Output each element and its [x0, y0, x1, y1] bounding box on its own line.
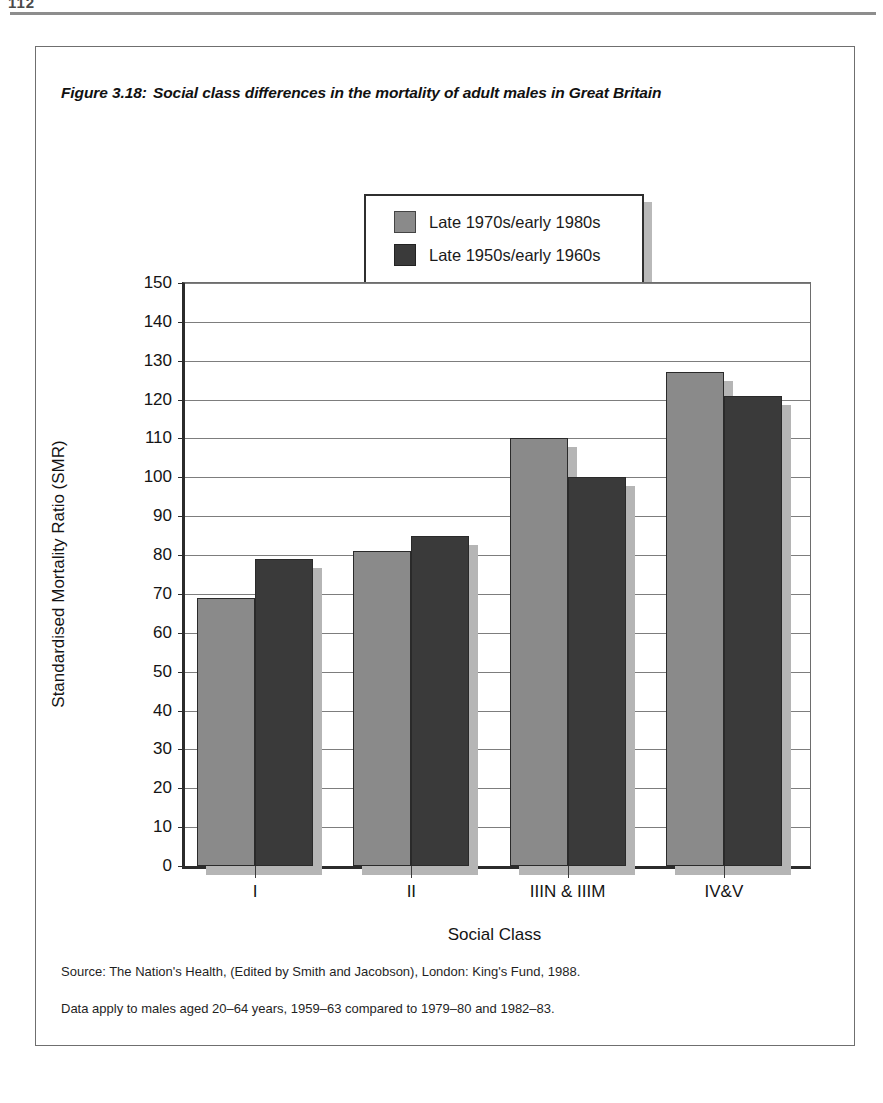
chart-legend: Late 1970s/early 1980s Late 1950s/early …: [364, 194, 644, 286]
figure-title-text: Social class differences in the mortalit…: [153, 84, 661, 101]
page-header: 112: [0, 0, 883, 30]
source-note: Source: The Nation's Health, (Edited by …: [61, 964, 580, 979]
legend-swatch-icon: [394, 211, 416, 233]
legend-item-late-1970s: Late 1970s/early 1980s: [394, 211, 601, 233]
figure-title: Figure 3.18:Social class differences in …: [61, 84, 661, 102]
legend-label: Late 1970s/early 1980s: [429, 213, 601, 232]
legend-label: Late 1950s/early 1960s: [429, 246, 601, 265]
data-note: Data apply to males aged 20–64 years, 19…: [61, 1001, 555, 1016]
figure-frame: Figure 3.18:Social class differences in …: [35, 46, 855, 1046]
header-rule-divider: [10, 12, 876, 15]
figure-number: Figure 3.18:: [61, 84, 153, 102]
legend-item-late-1950s: Late 1950s/early 1960s: [394, 244, 601, 266]
legend-swatch-icon: [394, 244, 416, 266]
page-number: 112: [8, 0, 35, 11]
